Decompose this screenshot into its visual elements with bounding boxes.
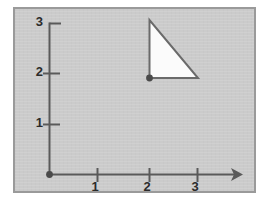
x-axis-tick-label-2: 2	[140, 180, 154, 193]
y-axis-tick-label-3: 3	[29, 15, 43, 28]
x-axis-tick-label-3: 3	[188, 180, 202, 193]
right-triangle-shape	[150, 20, 199, 78]
coordinate-plane-figure: 3 2 1 1 2 3	[0, 0, 269, 203]
origin-point-marker	[46, 171, 53, 178]
y-axis-tick-label-1: 1	[29, 116, 43, 129]
plot-frame	[13, 7, 256, 193]
plot-canvas	[13, 7, 256, 193]
x-axis-tick-label-1: 1	[88, 180, 102, 193]
triangle-vertex-point-marker	[146, 75, 153, 82]
y-axis-tick-label-2: 2	[29, 65, 43, 78]
